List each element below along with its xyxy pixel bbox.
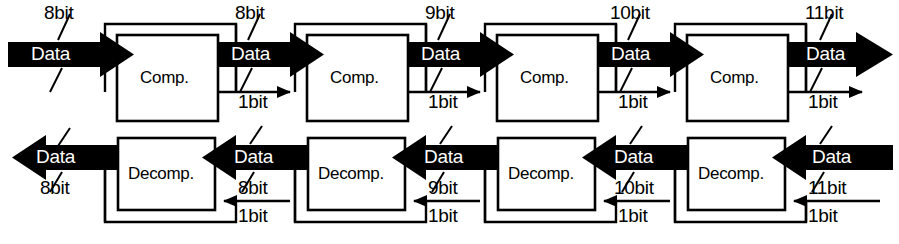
stage-1-comp-label: Comp.: [140, 68, 189, 88]
bottom-data-label-4: Data: [614, 146, 653, 168]
stage-2-decomp-label: Decomp.: [318, 164, 384, 184]
bottom-width-label-2: 8bit: [238, 177, 267, 199]
top-width-label-5: 11bit: [805, 2, 843, 24]
stage-4-comp-1bit-label: 1bit: [808, 91, 837, 113]
stage-4-decomp-1bit-label: 1bit: [808, 205, 837, 227]
top-data-arrow-1: [8, 32, 134, 77]
stage-3-decomp-label: Decomp.: [508, 164, 574, 184]
bottom-width-label-3: 9bit: [428, 177, 457, 199]
stage-1-decomp-1bit-label: 1bit: [238, 205, 267, 227]
bottom-data-label-3: Data: [424, 146, 463, 168]
bottom-data-label-5: Data: [812, 146, 851, 168]
bottom-width-label-1: 8bit: [40, 177, 69, 199]
top-width-label-2: 8bit: [235, 2, 264, 24]
bottom-data-label-1: Data: [36, 146, 75, 168]
top-data-label-2: Data: [231, 43, 270, 65]
top-data-label-3: Data: [421, 43, 460, 65]
bottom-width-label-5: 11bit: [808, 177, 846, 199]
stage-3-comp-label: Comp.: [520, 68, 569, 88]
top-width-label-3: 9bit: [425, 2, 454, 24]
stage-2-decomp-1bit-label: 1bit: [428, 205, 457, 227]
stage-4-comp-label: Comp.: [710, 68, 759, 88]
bottom-width-label-4: 10bit: [614, 177, 654, 199]
top-data-label-1: Data: [31, 43, 70, 65]
stage-2-comp-label: Comp.: [330, 68, 379, 88]
stage-4-decomp-label: Decomp.: [698, 164, 764, 184]
stage-1-comp-1bit-label: 1bit: [238, 91, 267, 113]
stage-3-decomp-1bit-label: 1bit: [618, 205, 647, 227]
top-data-label-4: Data: [611, 43, 650, 65]
top-width-label-4: 10bit: [610, 2, 650, 24]
top-data-label-5: Data: [806, 43, 845, 65]
top-width-label-1: 8bit: [44, 2, 73, 24]
stage-1-decomp-label: Decomp.: [128, 164, 194, 184]
diagram-canvas: 8bit 8bit 9bit 10bit 11bit Data Data Dat…: [0, 0, 899, 244]
stage-2-comp-1bit-label: 1bit: [428, 91, 457, 113]
bottom-data-label-2: Data: [234, 146, 273, 168]
stage-3-comp-1bit-label: 1bit: [618, 91, 647, 113]
